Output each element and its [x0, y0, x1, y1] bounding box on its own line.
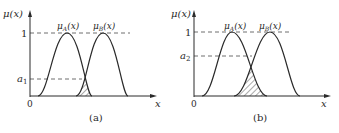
y-axis-arrow-icon	[192, 10, 196, 17]
y-axis-label-a: μ(x)	[3, 8, 23, 19]
cut-label-b: a2	[180, 50, 190, 63]
y-axis-label-b: μ(x)	[171, 8, 191, 19]
intersection-hatch-a	[76, 33, 128, 96]
y-axis-arrow-icon	[28, 10, 32, 17]
cut-label-a: a1	[17, 73, 27, 86]
caption-a: (a)	[89, 112, 103, 123]
curve-a-label-panel-a: μA(x)	[57, 21, 80, 32]
curve-a-label-panel-b: μA(x)	[224, 21, 247, 32]
x-axis-label-a: x	[155, 98, 161, 109]
curve-b-label-panel-b: μB(x)	[259, 21, 282, 32]
origin-label-b: 0	[191, 99, 197, 109]
panel-a: μ(x) 1 a1 0 x μA(x) μB(x) (a)	[3, 8, 161, 123]
caption-b: (b)	[253, 112, 267, 123]
panel-b: μ(x) 1 a2 0 x μA(x) μB(x) (b)	[171, 8, 331, 123]
x-axis-label-b: x	[321, 98, 327, 109]
curve-b-label-panel-a: μB(x)	[93, 21, 116, 32]
level-one-label-a: 1	[21, 28, 27, 39]
origin-label-a: 0	[27, 99, 33, 109]
level-one-label-b: 1	[185, 27, 191, 38]
curve-mu-b-panel-b	[234, 32, 300, 96]
fuzzy-membership-diagram: μ(x) 1 a1 0 x μA(x) μB(x) (a) μ(x) 1 a2 …	[0, 0, 339, 133]
